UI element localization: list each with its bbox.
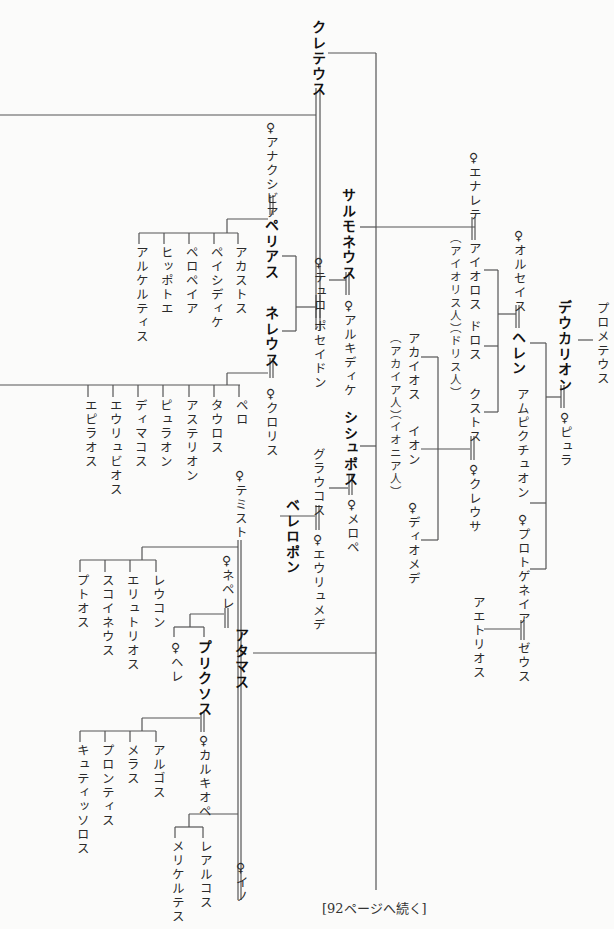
note-aiolians: （アイオリス人） <box>448 232 462 336</box>
person-melikertes: メリケルテス <box>169 840 183 924</box>
person-phrontis: プロンティス <box>99 744 113 828</box>
person-hellen: ヘレン <box>510 330 526 377</box>
person-pero: ペロ <box>233 399 247 427</box>
person-diomede: ♀ディオメデ <box>405 500 419 586</box>
person-salmoneus: サルモネウス <box>340 188 356 281</box>
genealogy-diagram: クレテウス ♀アナクシビア ペリアス アカストス ペイシディケ ペロペイア ヒッ… <box>0 0 614 929</box>
person-athamas: アタマス <box>233 628 249 690</box>
person-leukon: レウコン <box>150 574 164 630</box>
person-protogeneia: ♀プロトゲネイア <box>515 512 529 626</box>
person-alkidike: ♀アルキディケ <box>341 298 355 398</box>
person-enarete: ♀エナレテ <box>466 150 480 222</box>
person-glaukos: グラウコス <box>310 448 324 518</box>
person-pylaon: ピュラオン <box>157 399 171 469</box>
person-asterion: アステリオン <box>183 399 197 483</box>
person-nephele: ♀ネペレ <box>219 553 233 611</box>
person-aethlios: アエトリオス <box>470 596 484 680</box>
person-achaios: アカイオス <box>405 332 419 402</box>
person-chalkiope: ♀カルキオペ <box>196 733 210 819</box>
person-deukalion: デウカリオン <box>556 300 572 393</box>
person-tyro: ♀テュロ <box>311 255 325 313</box>
person-bellerophon: ベレロポン <box>284 498 300 576</box>
person-ino: ♀イノ <box>233 860 247 904</box>
person-eurymede: ♀エウリュメデ <box>310 532 324 632</box>
person-prometheus: プロメテウス <box>594 302 608 386</box>
person-chloris: ♀クロリス <box>263 386 277 458</box>
person-neleus: ネレウス <box>263 306 279 368</box>
continued-note: [92ページへ続く] <box>322 898 427 917</box>
person-pyrrha: ♀ピュラ <box>557 410 571 468</box>
person-orseis: ♀オルセイス <box>511 228 525 314</box>
person-learchos: レアルコス <box>197 840 211 910</box>
person-pelias: ペリアス <box>263 218 279 280</box>
person-anaxibia: ♀アナクシビア <box>263 120 277 220</box>
person-merope: ♀メロペ <box>344 497 358 555</box>
person-kytissoros: キュティッソロス <box>74 744 88 856</box>
person-argos: アルゴス <box>150 744 164 800</box>
person-doros: ドロス <box>466 320 480 362</box>
person-deimachos: ディマコス <box>132 399 146 469</box>
person-amphiktyon: アムピクチュオン <box>514 388 528 500</box>
person-alkestis: アルケルティス <box>133 246 147 344</box>
person-aiolos: アイオロス <box>466 242 480 312</box>
person-helle: ♀ヘレ <box>168 640 182 684</box>
person-schoineus: スコイネウス <box>99 574 113 658</box>
person-ion: イオン <box>405 425 419 467</box>
person-melas: メラス <box>124 744 138 786</box>
person-akastos: アカストス <box>232 246 246 316</box>
person-sisyphos: シシュポス <box>342 410 358 488</box>
person-themisto: ♀テミスト <box>232 468 246 540</box>
person-peisidike: ペイシディケ <box>208 246 222 330</box>
person-hippothoe: ヒッポトエ <box>158 246 172 316</box>
person-poseidon: ポセイドン <box>311 320 325 390</box>
person-creusa: ♀クレウサ <box>466 462 480 534</box>
note-dorians: （ドリス人） <box>448 322 462 400</box>
person-erythrios: エリュトリオス <box>124 574 138 672</box>
note-ionians: （イオニア人） <box>388 408 402 499</box>
person-epilaos: エピラオス <box>82 399 96 469</box>
person-eurybios: エウリュビオス <box>107 399 121 497</box>
person-phrixos: プリクソス <box>196 640 212 718</box>
person-zeus: ゼウス <box>515 642 529 684</box>
person-tauros: タウロス <box>208 399 222 455</box>
person-xuthos: クストス <box>466 388 480 444</box>
person-kreteus: クレテウス <box>310 20 326 98</box>
person-pelopeia: ペロペイア <box>183 246 197 316</box>
person-ptoos: プトオス <box>74 574 88 630</box>
